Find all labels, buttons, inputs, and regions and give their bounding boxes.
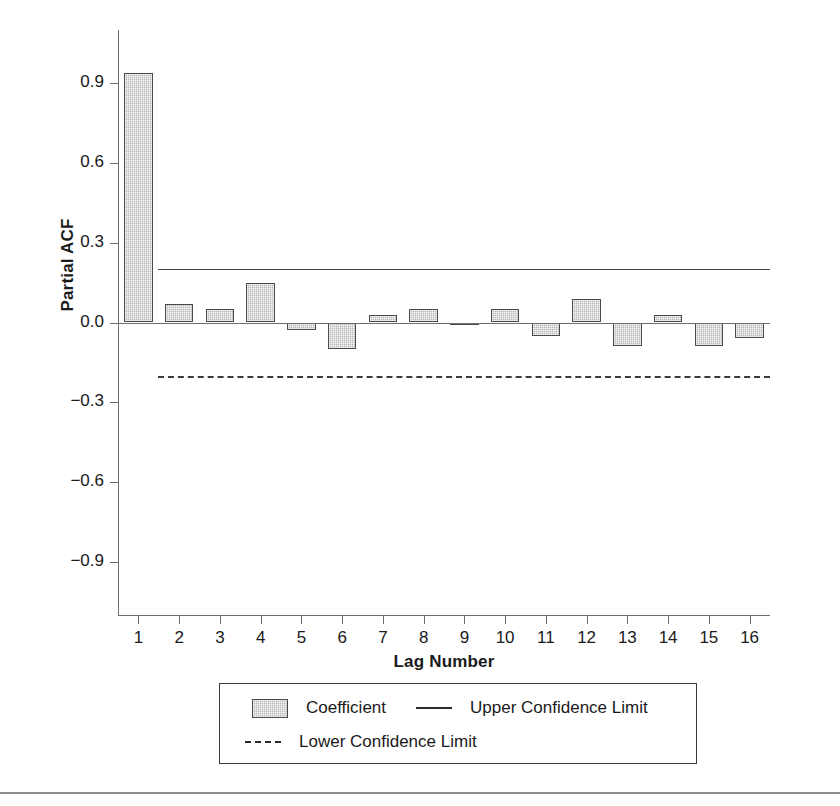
y-axis-tick-label: −0.3 xyxy=(48,391,104,411)
x-axis-tick-label: 5 xyxy=(281,628,321,648)
x-axis-tick xyxy=(383,615,384,624)
legend-entry-lower-confidence-limit: Lower Confidence Limit xyxy=(245,732,477,752)
y-axis-tick-label: −0.9 xyxy=(48,551,104,571)
x-axis-tick-label: 12 xyxy=(567,628,607,648)
x-axis-tick xyxy=(179,615,180,624)
x-axis-tick-label: 2 xyxy=(159,628,199,648)
x-axis-tick-label: 8 xyxy=(404,628,444,648)
pacf-bar xyxy=(246,283,275,323)
y-axis-tick xyxy=(110,402,119,403)
legend-label-upper-confidence-limit: Upper Confidence Limit xyxy=(470,698,648,718)
y-axis-tick-label: −0.6 xyxy=(48,471,104,491)
solid-line-swatch-icon xyxy=(416,707,452,709)
dashed-line-swatch-icon xyxy=(245,741,281,743)
x-axis-tick xyxy=(220,615,221,624)
x-axis-tick-label: 6 xyxy=(322,628,362,648)
x-axis-tick-label: 13 xyxy=(607,628,647,648)
y-axis-tick xyxy=(110,562,119,563)
x-axis-tick xyxy=(342,615,343,624)
pacf-bar xyxy=(328,323,357,350)
y-axis-tick xyxy=(110,482,119,483)
chart-legend: Coefficient Upper Confidence Limit Lower… xyxy=(219,683,697,764)
legend-row-1: Coefficient Upper Confidence Limit xyxy=(220,691,696,725)
x-axis-title: Lag Number xyxy=(118,652,770,672)
x-axis-tick-label: 4 xyxy=(241,628,281,648)
pacf-bar xyxy=(409,309,438,322)
x-axis-tick-label: 3 xyxy=(200,628,240,648)
x-axis-tick-label: 1 xyxy=(118,628,158,648)
legend-entry-coefficient: Coefficient xyxy=(252,698,386,718)
x-axis-tick xyxy=(424,615,425,624)
coefficient-swatch-icon xyxy=(252,699,288,718)
y-axis-tick xyxy=(110,163,119,164)
pacf-bar xyxy=(124,73,153,323)
pacf-bar xyxy=(654,315,683,323)
pacf-bar xyxy=(613,323,642,347)
x-axis-tick xyxy=(668,615,669,624)
legend-label-lower-confidence-limit: Lower Confidence Limit xyxy=(299,732,477,752)
x-axis-tick xyxy=(627,615,628,624)
pacf-bar xyxy=(695,323,724,347)
pacf-bar xyxy=(206,309,235,322)
x-axis-tick-label: 14 xyxy=(648,628,688,648)
x-axis-tick xyxy=(587,615,588,624)
x-axis-line xyxy=(118,615,770,616)
y-axis-tick-label: 0.9 xyxy=(48,72,104,92)
pacf-bar xyxy=(287,323,316,331)
x-axis-tick xyxy=(750,615,751,624)
legend-entry-upper-confidence-limit: Upper Confidence Limit xyxy=(416,698,648,718)
upper-confidence-limit-line xyxy=(158,269,770,270)
x-axis-tick xyxy=(301,615,302,624)
x-axis-tick xyxy=(709,615,710,624)
x-axis-tick-label: 16 xyxy=(730,628,770,648)
pacf-bar xyxy=(572,299,601,323)
x-axis-tick-label: 11 xyxy=(526,628,566,648)
pacf-bar xyxy=(735,323,764,339)
x-axis-tick xyxy=(138,615,139,624)
legend-row-2: Lower Confidence Limit xyxy=(220,725,696,759)
x-axis-tick-label: 10 xyxy=(485,628,525,648)
x-axis-tick-label: 7 xyxy=(363,628,403,648)
y-axis-tick-label: 0.3 xyxy=(48,232,104,252)
x-axis-tick xyxy=(261,615,262,624)
legend-label-coefficient: Coefficient xyxy=(306,698,386,718)
zero-reference-line xyxy=(118,323,770,324)
x-axis-tick xyxy=(505,615,506,624)
pacf-bar xyxy=(165,304,194,323)
pacf-bar xyxy=(532,323,561,336)
footer-divider xyxy=(0,792,840,794)
y-axis-tick-label: 0.0 xyxy=(48,312,104,332)
y-axis-tick-label: 0.6 xyxy=(48,152,104,172)
pacf-bar xyxy=(369,315,398,323)
x-axis-tick-label: 15 xyxy=(689,628,729,648)
pacf-correlogram-figure: Partial ACF 0.90.60.30.0−0.3−0.6−0.9 123… xyxy=(0,0,840,806)
x-axis-tick xyxy=(546,615,547,624)
x-axis-tick xyxy=(464,615,465,624)
x-axis-tick-label: 9 xyxy=(444,628,484,648)
lower-confidence-limit-line xyxy=(158,376,770,378)
y-axis-tick xyxy=(110,243,119,244)
y-axis-tick xyxy=(110,83,119,84)
pacf-bar xyxy=(491,309,520,322)
